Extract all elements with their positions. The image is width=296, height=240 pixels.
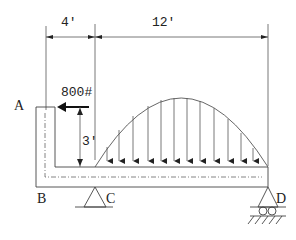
frame-diagram: 4' 12' A 800# 3' B: [0, 0, 296, 240]
point-label-c: C: [106, 191, 115, 206]
point-load-label: 800#: [61, 85, 92, 100]
distributed-load-arrows: [107, 98, 253, 161]
dimension-label-left: 4': [61, 15, 77, 30]
point-label-b: B: [37, 191, 46, 206]
dimension-label-right: 12': [152, 15, 175, 30]
frame-member: [36, 107, 268, 187]
point-label-a: A: [14, 98, 25, 113]
point-label-d: D: [276, 191, 286, 206]
vertical-dimension-label: 3': [82, 134, 98, 149]
point-load-arrow: [57, 102, 89, 112]
distributed-load-curve: [95, 98, 268, 167]
